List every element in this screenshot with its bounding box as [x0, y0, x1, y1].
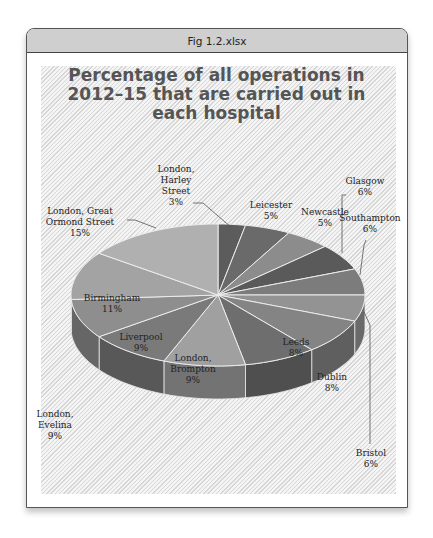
- data-label: Southampton6%: [339, 213, 400, 234]
- leader-line: [342, 195, 346, 253]
- leader-line: [360, 240, 366, 275]
- pie-chart: London,HarleyStreet3%Leicester5%Newcastl…: [0, 0, 433, 538]
- data-label: Leicester5%: [250, 200, 293, 221]
- leader-line: [127, 220, 156, 228]
- data-label: London,HarleyStreet3%: [157, 164, 194, 207]
- data-label: Bristol6%: [356, 448, 386, 469]
- data-label: London, GreatOrmond Street15%: [46, 206, 115, 238]
- data-label: Glasgow6%: [346, 176, 385, 197]
- data-label: Dublin8%: [317, 372, 348, 393]
- data-label: London,Evelina9%: [36, 409, 73, 441]
